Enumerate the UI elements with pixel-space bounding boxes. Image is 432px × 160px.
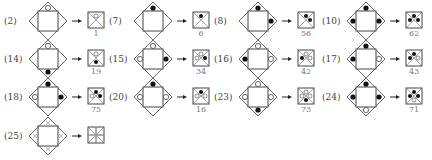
diagram-item: (20)16	[109, 78, 217, 116]
result-number: 6	[191, 29, 211, 38]
result-number: 73	[296, 105, 316, 114]
result-number: 1	[86, 29, 106, 38]
result-number: 75	[86, 105, 106, 114]
result-number: 62	[404, 29, 424, 38]
diagram-item: (2)1	[4, 2, 112, 40]
result-number: 56	[296, 29, 316, 38]
diagram-item: (23)73	[214, 78, 322, 116]
diagram-item: (10)62	[322, 2, 430, 40]
result-number: 43	[404, 67, 424, 76]
diagram-item: (24)71	[322, 78, 430, 116]
diagram-item: (17)43	[322, 40, 430, 78]
diagram-item: (16)42	[214, 40, 322, 78]
result-number: 42	[296, 67, 316, 76]
diamond-figure	[4, 117, 112, 155]
diagram-item: (15)34	[109, 40, 217, 78]
diagram-item: (25)	[4, 117, 112, 155]
diagram-item: (18)75	[4, 78, 112, 116]
diagram-item: (14)19	[4, 40, 112, 78]
diagram-item: (7)6	[109, 2, 217, 40]
diagram-item: (8)56	[214, 2, 322, 40]
result-number: 19	[86, 67, 106, 76]
result-number: 71	[404, 105, 424, 114]
result-number: 34	[191, 67, 211, 76]
result-number: 16	[191, 105, 211, 114]
